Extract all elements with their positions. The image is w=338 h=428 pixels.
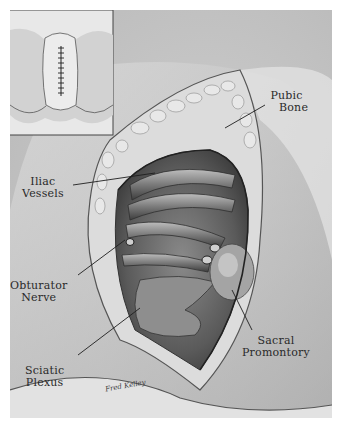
label-sacral-promontory: Sacral Promontory	[242, 335, 310, 359]
label-iliac-vessels: Iliac Vessels	[22, 176, 64, 200]
label-pubic-bone: Pubic Bone	[265, 90, 308, 114]
label-sciatic-plexus: Sciatic Plexus	[25, 365, 64, 389]
anatomical-illustration: Pubic Bone Iliac Vessels Obturator Nerve…	[10, 10, 332, 418]
label-obturator-nerve: Obturator Nerve	[10, 280, 67, 304]
inset-panel	[10, 10, 113, 135]
